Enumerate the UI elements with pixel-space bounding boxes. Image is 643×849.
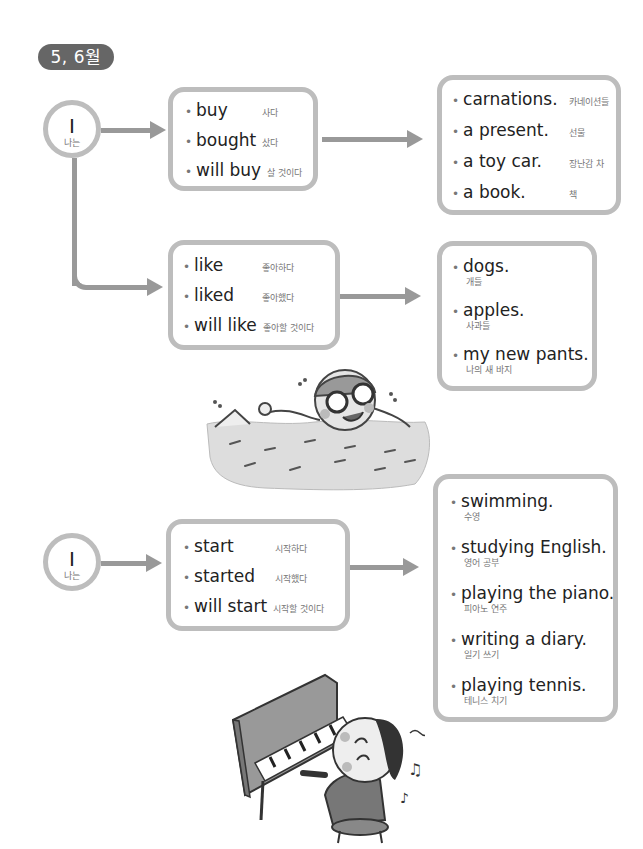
connector-elbow xyxy=(72,270,92,290)
subject-circle-2: I 나는 xyxy=(43,533,101,591)
objects-box-start: •swimming.수영 •studying English.영어 공부 •pl… xyxy=(433,474,618,722)
connector-line xyxy=(340,294,410,299)
connector-line xyxy=(101,128,155,133)
object-item: •playing tennis.테니스 치기 xyxy=(450,675,613,721)
verb-row: •will start시작할 것이다 xyxy=(183,596,345,626)
pianist-illustration: ♫ ♪ ♩ xyxy=(225,655,425,845)
verb-row: •start시작하다 xyxy=(183,536,345,566)
verbs-box-like: •like좋아하다 •liked좋아했다 •will like좋아할 것이다 xyxy=(168,240,340,350)
svg-text:♩: ♩ xyxy=(393,739,399,753)
verbs-box-start: •start시작하다 •started시작했다 •will start시작할 것… xyxy=(166,519,350,631)
object-item: •apples.사과들 xyxy=(452,300,592,344)
object-row: •a toy car.장난감 차 xyxy=(452,151,616,182)
object-item: •dogs.개들 xyxy=(452,256,592,300)
svg-text:♪: ♪ xyxy=(400,790,409,806)
object-item: •writing a diary.일기 쓰기 xyxy=(450,629,613,675)
object-item: •studying English.영어 공부 xyxy=(450,537,613,583)
verb-row: •like좋아하다 xyxy=(183,255,335,285)
object-row: •a present.선물 xyxy=(452,120,616,151)
month-badge: 5, 6월 xyxy=(38,44,114,70)
verb-row: •buy사다 xyxy=(185,100,313,130)
arrow-right-icon xyxy=(403,558,419,576)
connector-line xyxy=(350,565,408,570)
verb-row: •started시작했다 xyxy=(183,566,345,596)
subject-en: I xyxy=(48,116,96,136)
subject-ko: 나는 xyxy=(48,136,96,149)
arrow-right-icon xyxy=(146,554,162,572)
verb-row: •bought샀다 xyxy=(185,130,313,160)
verb-row: •will like좋아할 것이다 xyxy=(183,315,335,345)
object-row: •a book.책 xyxy=(452,182,616,213)
svg-text:♫: ♫ xyxy=(408,760,422,779)
connector-line xyxy=(90,285,152,290)
connector-line-vertical xyxy=(72,158,77,286)
subject-ko: 나는 xyxy=(48,569,96,582)
object-row: •carnations.카네이션들 xyxy=(452,89,616,120)
object-item: •my new pants.나의 새 바지 xyxy=(452,344,592,388)
verb-row: •will buy살 것이다 xyxy=(185,160,313,190)
object-item: •playing the piano.피아노 연주 xyxy=(450,583,613,629)
verbs-box-buy: •buy사다 •bought샀다 •will buy살 것이다 xyxy=(168,87,318,191)
objects-box-buy: •carnations.카네이션들 •a present.선물 •a toy c… xyxy=(437,75,621,215)
arrow-right-icon xyxy=(407,130,423,148)
subject-en: I xyxy=(48,549,96,569)
swimmer-illustration xyxy=(195,362,440,497)
connector-line xyxy=(101,561,151,566)
objects-box-like: •dogs.개들 •apples.사과들 •my new pants.나의 새 … xyxy=(437,241,597,391)
object-item: •swimming.수영 xyxy=(450,491,613,537)
arrow-right-icon xyxy=(150,121,166,139)
verb-row: •liked좋아했다 xyxy=(183,285,335,315)
connector-line xyxy=(322,137,412,142)
arrow-right-icon xyxy=(147,278,163,296)
subject-circle-1: I 나는 xyxy=(43,100,101,158)
arrow-right-icon xyxy=(405,287,421,305)
